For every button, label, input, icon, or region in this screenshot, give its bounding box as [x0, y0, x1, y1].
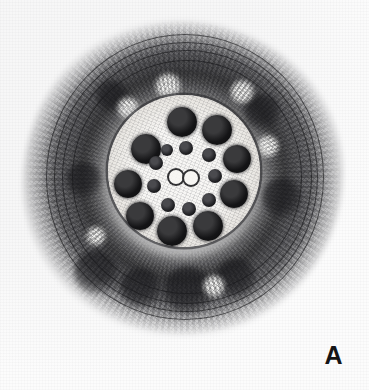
spoke-9: [161, 144, 173, 156]
panel-label: A: [324, 343, 343, 368]
doublet-6: [157, 216, 187, 246]
axoneme-micrograph-image: [0, 0, 369, 390]
central-tubule-2: [182, 169, 200, 187]
spoke-1: [179, 141, 193, 155]
spoke-4: [202, 193, 216, 207]
spoke-8: [149, 156, 163, 170]
spoke-6: [161, 198, 175, 212]
doublet-8: [114, 170, 142, 198]
doublet-3: [223, 145, 251, 173]
doublet-1: [167, 107, 197, 137]
doublet-2: [202, 115, 232, 145]
spoke-7: [147, 179, 161, 193]
spoke-5: [182, 202, 196, 216]
doublet-7: [126, 202, 154, 230]
spoke-2: [202, 148, 216, 162]
doublet-4: [220, 180, 248, 208]
micrograph-figure: A Transmission electron micrograph of a …: [0, 0, 369, 390]
spoke-3: [208, 169, 222, 183]
doublet-5: [193, 211, 223, 241]
